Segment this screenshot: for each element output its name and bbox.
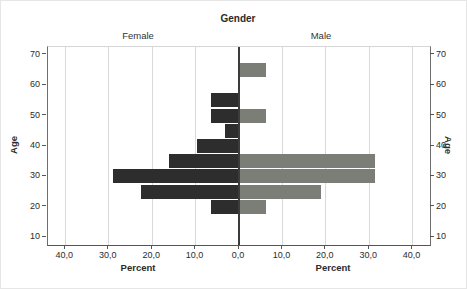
- bar-male-age-35: [239, 154, 375, 168]
- center-axis-line: [238, 47, 240, 245]
- y-tick-right: [430, 53, 434, 54]
- y-tick-left: [42, 114, 46, 115]
- x-tick-label: 40,0: [397, 250, 427, 260]
- y-tick-left: [42, 53, 46, 54]
- x-tick: [64, 245, 65, 249]
- y-tick-right: [430, 145, 434, 146]
- bar-female-age-20: [211, 200, 239, 214]
- plot-area: [47, 46, 431, 246]
- panel-label-male: Male: [271, 30, 371, 41]
- y-tick-left: [42, 205, 46, 206]
- y-tick-right: [430, 205, 434, 206]
- panel-label-female: Female: [88, 30, 188, 41]
- y-tick-label-right: 20: [436, 201, 458, 211]
- x-tick-label: 40,0: [49, 250, 79, 260]
- x-axis-title-right: Percent: [283, 262, 383, 273]
- gridline: [152, 47, 153, 245]
- population-pyramid-chart: Gender Female Male Age Age Percent Perce…: [0, 0, 467, 289]
- x-tick-label: 10,0: [180, 250, 210, 260]
- y-tick-right: [430, 175, 434, 176]
- bar-female-age-35: [169, 154, 239, 168]
- x-tick: [281, 245, 282, 249]
- y-tick-left: [42, 236, 46, 237]
- x-axis-title-left: Percent: [88, 262, 188, 273]
- y-tick-left: [42, 175, 46, 176]
- y-tick-label-left: 30: [18, 170, 40, 180]
- x-tick-label: 20,0: [310, 250, 340, 260]
- x-tick-label: 30,0: [93, 250, 123, 260]
- y-tick-right: [430, 114, 434, 115]
- x-tick: [151, 245, 152, 249]
- gridline: [325, 47, 326, 245]
- bar-male-age-25: [239, 185, 321, 199]
- y-tick-right: [430, 84, 434, 85]
- x-tick: [238, 245, 239, 249]
- y-tick-label-right: 40: [436, 140, 458, 150]
- y-tick-label-right: 70: [436, 49, 458, 59]
- gridline: [412, 47, 413, 245]
- x-tick: [107, 245, 108, 249]
- y-tick-label-left: 20: [18, 201, 40, 211]
- y-tick-right: [430, 236, 434, 237]
- bar-female-age-25: [141, 185, 239, 199]
- y-tick-label-left: 60: [18, 79, 40, 89]
- bar-female-age-30: [113, 169, 239, 183]
- y-tick-left: [42, 84, 46, 85]
- y-tick-label-left: 50: [18, 110, 40, 120]
- gridline: [369, 47, 370, 245]
- chart-title: Gender: [11, 13, 465, 24]
- x-tick: [411, 245, 412, 249]
- bar-female-age-55: [211, 93, 239, 107]
- bar-male-age-30: [239, 169, 375, 183]
- bar-female-age-50: [211, 109, 239, 123]
- y-tick-label-left: 70: [18, 49, 40, 59]
- gridline: [65, 47, 66, 245]
- y-tick-left: [42, 145, 46, 146]
- x-tick: [324, 245, 325, 249]
- x-tick: [194, 245, 195, 249]
- y-tick-label-left: 40: [18, 140, 40, 150]
- x-tick-label: 10,0: [266, 250, 296, 260]
- y-tick-label-right: 30: [436, 170, 458, 180]
- y-tick-label-right: 10: [436, 231, 458, 241]
- bar-female-age-45: [225, 124, 239, 138]
- gridline: [282, 47, 283, 245]
- gridline: [108, 47, 109, 245]
- bar-male-age-20: [239, 200, 266, 214]
- x-tick: [368, 245, 369, 249]
- x-tick-label: 0,0: [223, 250, 253, 260]
- bar-male-age-50: [239, 109, 266, 123]
- y-tick-label-right: 60: [436, 79, 458, 89]
- x-tick-label: 30,0: [353, 250, 383, 260]
- bar-male-age-65: [239, 63, 266, 77]
- x-tick-label: 20,0: [136, 250, 166, 260]
- y-tick-label-left: 10: [18, 231, 40, 241]
- bar-female-age-40: [197, 139, 239, 153]
- y-tick-label-right: 50: [436, 110, 458, 120]
